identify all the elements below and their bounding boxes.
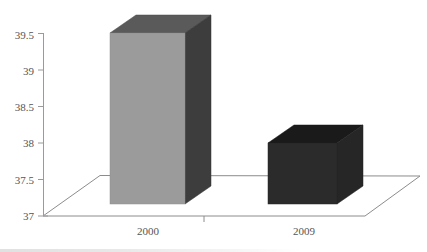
y-tick-label-39: 39 (2, 66, 34, 77)
y-tick-label-38: 38 (2, 138, 34, 149)
x-tick-label-2009: 2009 (293, 226, 315, 237)
bar-2009-front-face (268, 143, 337, 204)
y-tick-label-38-5: 38.5 (2, 102, 34, 113)
bar-2000-side-face (185, 15, 211, 204)
chart-canvas (0, 0, 427, 252)
x-tick-label-2000: 2000 (137, 226, 159, 237)
bar-2009[interactable] (268, 125, 363, 204)
y-tick-label-37-5: 37.5 (2, 175, 34, 186)
floor-plane (43, 176, 420, 217)
bar-chart: 39.5 39 38.5 38 37.5 37 2000 2009 (0, 0, 427, 252)
y-tick-label-39-5: 39.5 (2, 30, 34, 41)
y-tick-label-37: 37 (2, 211, 34, 222)
bar-2000[interactable] (110, 15, 211, 204)
bar-2000-front-face (110, 33, 185, 204)
